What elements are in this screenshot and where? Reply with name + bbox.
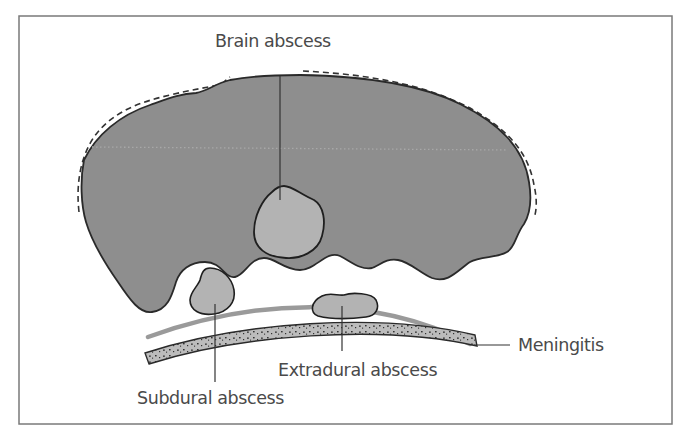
diagram-canvas: Brain abscess Meningitis Extradural absc… bbox=[0, 0, 683, 439]
extradural-abscess bbox=[312, 293, 377, 318]
diagram-figure: Brain abscess Meningitis Extradural absc… bbox=[0, 0, 683, 439]
label-brain-abscess: Brain abscess bbox=[215, 31, 331, 51]
label-meningitis: Meningitis bbox=[518, 335, 604, 355]
label-extradural-abscess: Extradural abscess bbox=[278, 360, 437, 380]
label-subdural-abscess: Subdural abscess bbox=[137, 388, 284, 408]
